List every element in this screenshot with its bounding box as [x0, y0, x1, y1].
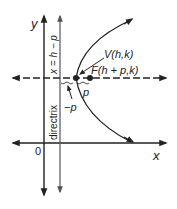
vertex-label: V(h,k)	[104, 48, 134, 60]
x-axis-label: x	[152, 148, 160, 163]
parabola-curve	[76, 20, 131, 142]
brace-neg-p	[61, 82, 73, 84]
vertex-point	[73, 75, 79, 81]
brace-pos-p	[77, 82, 89, 84]
p-label: p	[82, 86, 89, 98]
directrix-label: directrix	[48, 105, 59, 140]
origin-label: 0	[35, 145, 41, 157]
focus-label: F(h + p,k)	[91, 64, 139, 76]
neg-p-pointer	[68, 86, 72, 99]
y-axis-label: y	[30, 16, 39, 31]
neg-p-label: −p	[64, 101, 77, 113]
parabola-upper-arrow	[124, 19, 132, 24]
parabola-diagram: y x 0 directrix x = h − p V(h,k) F(h + p…	[0, 0, 177, 209]
directrix-equation: x = h − p	[48, 35, 59, 75]
